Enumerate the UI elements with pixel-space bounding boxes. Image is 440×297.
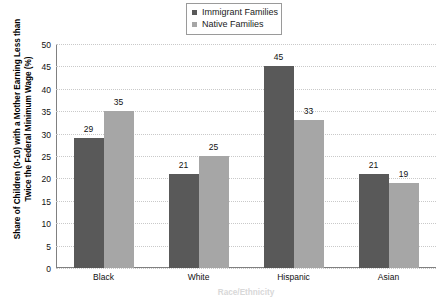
- chart-legend: Immigrant Families Native Families: [186, 3, 282, 35]
- legend-swatch-immigrant-families: [192, 10, 197, 15]
- x-axis-title: Race/Ethnicity: [56, 288, 436, 297]
- bar-value-black-immigrant: 29: [84, 125, 93, 134]
- plot-area: 50 45 40 35 30 25 20 15 10 5 0: [56, 44, 436, 268]
- bar-value-hispanic-native: 33: [304, 107, 313, 116]
- bar-value-white-immigrant: 21: [179, 161, 188, 170]
- x-tick-label-asian: Asian: [341, 272, 436, 282]
- legend-label-native-families: Native Families: [202, 19, 264, 30]
- y-tick-label-10: 10: [31, 220, 51, 228]
- bar-groups: 29 35 21 25: [56, 44, 436, 268]
- y-tick-label-35: 35: [31, 108, 51, 116]
- y-tick-label-0: 0: [31, 265, 51, 273]
- bar-wrap-asian-immigrant: 21: [359, 44, 389, 268]
- bar-wrap-white-native: 25: [199, 44, 229, 268]
- bar-wrap-asian-native: 19: [389, 44, 419, 268]
- bar-wrap-hispanic-native: 33: [294, 44, 324, 268]
- bar-chart: Immigrant Families Native Families Share…: [0, 0, 440, 297]
- x-tick-label-hispanic: Hispanic: [246, 272, 341, 282]
- bar-value-black-native: 35: [114, 98, 123, 107]
- bar-group-black: 29 35: [56, 44, 151, 268]
- y-tick-label-20: 20: [31, 175, 51, 183]
- y-tick-label-5: 5: [31, 243, 51, 251]
- legend-item-native-families[interactable]: Native Families: [191, 19, 277, 30]
- bar-wrap-black-immigrant: 29: [74, 44, 104, 268]
- bar-white-native[interactable]: 25: [199, 156, 229, 268]
- y-tick-label-15: 15: [31, 198, 51, 206]
- legend-swatch-native-families: [192, 22, 197, 27]
- bar-group-asian: 21 19: [341, 44, 436, 268]
- bar-asian-native[interactable]: 19: [389, 183, 419, 268]
- bar-group-hispanic: 45 33: [246, 44, 341, 268]
- bar-white-immigrant[interactable]: 21: [169, 174, 199, 268]
- bar-value-hispanic-immigrant: 45: [274, 53, 283, 62]
- y-tick-label-25: 25: [31, 153, 51, 161]
- bar-black-immigrant[interactable]: 29: [74, 138, 104, 268]
- bar-group-white: 21 25: [151, 44, 246, 268]
- bar-value-asian-immigrant: 21: [369, 161, 378, 170]
- bar-asian-immigrant[interactable]: 21: [359, 174, 389, 268]
- y-tick-label-40: 40: [31, 86, 51, 94]
- bar-value-white-native: 25: [209, 143, 218, 152]
- bar-wrap-hispanic-immigrant: 45: [264, 44, 294, 268]
- bar-wrap-black-native: 35: [104, 44, 134, 268]
- y-tick-label-30: 30: [31, 131, 51, 139]
- bar-black-native[interactable]: 35: [104, 111, 134, 268]
- legend-label-immigrant-families: Immigrant Families: [202, 7, 278, 18]
- bar-value-asian-native: 19: [399, 170, 408, 179]
- x-tick-label-black: Black: [56, 272, 151, 282]
- bar-hispanic-immigrant[interactable]: 45: [264, 66, 294, 268]
- y-tick-label-45: 45: [31, 63, 51, 71]
- y-tick-label-50: 50: [31, 41, 51, 49]
- x-tick-label-white: White: [151, 272, 246, 282]
- legend-item-immigrant-families[interactable]: Immigrant Families: [191, 7, 277, 18]
- bar-wrap-white-immigrant: 21: [169, 44, 199, 268]
- gridline-0: 0: [56, 268, 436, 269]
- bar-hispanic-native[interactable]: 33: [294, 120, 324, 268]
